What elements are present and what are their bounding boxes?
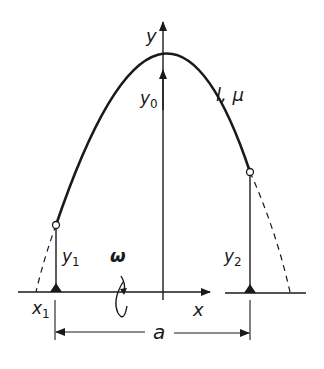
left-x-label: x1 [31, 298, 50, 321]
left-node [53, 222, 60, 229]
cable-extension-right [250, 172, 290, 292]
right-height-label: y2 [223, 246, 242, 269]
rotation-arrow-icon [116, 282, 127, 317]
cable-curve [56, 54, 250, 225]
cable-extension-left [36, 225, 56, 292]
cable-properties-label: l, μ [216, 84, 244, 105]
apex-height-label: y0 [139, 88, 158, 111]
y-axis-label: y [145, 25, 157, 46]
x-axis-label: x [192, 299, 204, 320]
cable-diagram: y y0 l, μ y1 y2 ω x1 x a [0, 0, 324, 369]
omega-label: ω [110, 245, 126, 266]
left-support [50, 283, 62, 292]
right-node [247, 169, 254, 176]
left-height-label: y1 [61, 246, 80, 269]
span-label: a [153, 320, 165, 344]
right-support [244, 284, 256, 293]
